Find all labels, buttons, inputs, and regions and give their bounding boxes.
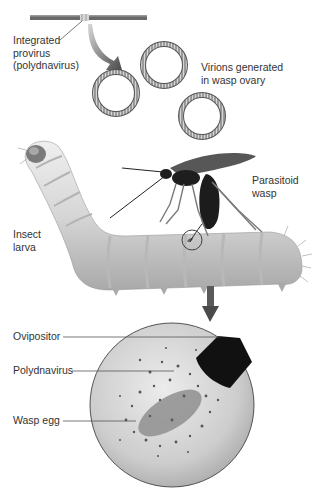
virion-ring — [181, 95, 223, 137]
label-virions: Virions generated in wasp ovary — [201, 61, 283, 86]
label-integrated-provirus: Integrated provirus (polydnavirus) — [13, 34, 79, 72]
virion-ring — [95, 72, 137, 114]
magnified-view — [90, 323, 254, 487]
label-polydnavirus: Polydnavirus — [13, 364, 73, 377]
label-wasp-egg: Wasp egg — [13, 414, 60, 427]
curved-arrow-icon — [88, 24, 122, 70]
parasitoid-wasp — [110, 153, 262, 242]
virion-ring — [143, 44, 185, 86]
label-insect-larva: Insect larva — [13, 228, 41, 253]
label-parasitoid-wasp: Parasitoid wasp — [252, 174, 299, 199]
dna-strand — [30, 14, 147, 21]
label-ovipositor: Ovipositor — [13, 330, 60, 343]
insect-larva — [18, 141, 312, 296]
